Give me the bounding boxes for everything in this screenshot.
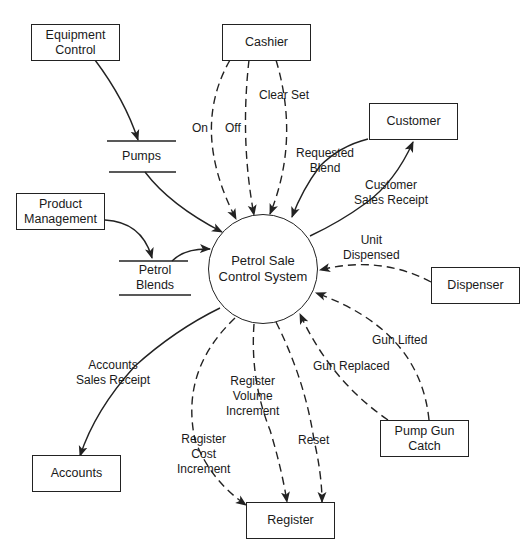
entity-dispenser[interactable]: Dispenser <box>431 267 520 304</box>
label-gun-replaced: Gun Replaced <box>313 359 390 374</box>
label-customer-sales-receipt: Customer Sales Receipt <box>354 178 428 208</box>
entity-register[interactable]: Register <box>246 502 335 539</box>
label-clear-set: Clear Set <box>259 88 309 103</box>
entity-equipment-control[interactable]: Equipment Control <box>31 24 120 61</box>
flow-off <box>245 60 254 215</box>
label-gun-lifted: Gun Lifted <box>372 333 427 348</box>
data-flow-diagram: Equipment Control Cashier Customer Produ… <box>0 0 525 552</box>
store-petrol-blends[interactable]: Petrol Blends <box>119 261 191 295</box>
entity-cashier[interactable]: Cashier <box>222 24 311 61</box>
label-accounts-sales-receipt: Accounts Sales Receipt <box>76 358 150 388</box>
flow-pumps-to-process <box>145 172 222 232</box>
label-requested-blend: Requested Blend <box>296 146 354 176</box>
flow-blends-to-process <box>172 249 210 261</box>
label-reset: Reset <box>298 433 329 448</box>
entity-accounts[interactable]: Accounts <box>32 455 121 492</box>
process-petrol-sale-control-system[interactable]: Petrol Sale Control System <box>208 214 318 324</box>
label-register-cost-increment: Register Cost Increment <box>177 432 230 477</box>
flow-clear-set <box>270 60 287 214</box>
flow-reset <box>276 322 322 502</box>
entity-pump-gun-catch[interactable]: Pump Gun Catch <box>380 420 469 457</box>
flow-gun-lifted <box>316 293 429 420</box>
label-register-volume-increment: Register Volume Increment <box>226 374 279 419</box>
label-on: On <box>192 121 208 136</box>
label-unit-dispensed: Unit Dispensed <box>343 233 400 263</box>
flow-on <box>211 60 236 219</box>
entity-product-management[interactable]: Product Management <box>16 193 105 230</box>
flow-product-to-blends <box>105 220 152 258</box>
label-off: Off <box>225 121 241 136</box>
flow-equipment-to-pumps <box>95 60 138 140</box>
entity-customer[interactable]: Customer <box>369 103 458 140</box>
flow-unit-dispensed <box>320 265 431 282</box>
store-pumps[interactable]: Pumps <box>107 141 176 172</box>
